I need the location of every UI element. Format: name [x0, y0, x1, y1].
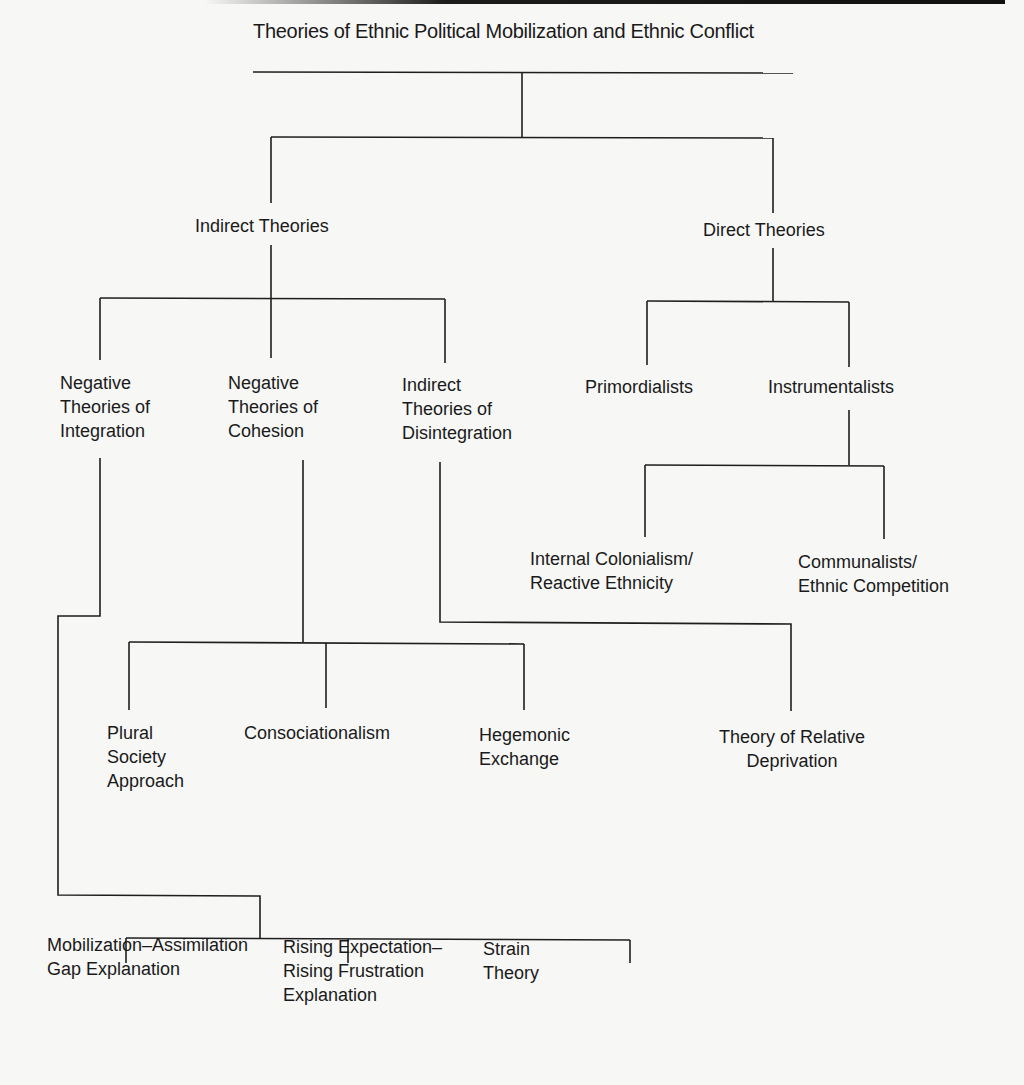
integration-connector [58, 458, 260, 938]
node-strain-theory: Strain Theory [483, 937, 539, 985]
level1-bar [271, 137, 773, 138]
node-negative-theories-cohesion: Negative Theories of Cohesion [228, 371, 318, 443]
node-indirect-theories-disintegration: Indirect Theories of Disintegration [402, 373, 512, 445]
node-relative-deprivation: Theory of Relative Deprivation [702, 725, 882, 773]
node-mobilization-assimilation: Mobilization–Assimilation Gap Explanatio… [47, 933, 248, 981]
node-indirect-theories: Indirect Theories [195, 214, 329, 238]
title-underline [253, 72, 793, 73]
node-hegemonic-exchange: Hegemonic Exchange [479, 723, 570, 771]
direct-bar [647, 301, 849, 302]
node-primordialists: Primordialists [585, 375, 693, 399]
node-direct-theories: Direct Theories [703, 218, 825, 242]
node-instrumentalists: Instrumentalists [768, 375, 894, 399]
tree-connectors [0, 0, 1024, 1085]
node-internal-colonialism: Internal Colonialism/ Reactive Ethnicity [530, 547, 693, 595]
instrumentalists-bar [645, 465, 884, 466]
node-plural-society: Plural Society Approach [107, 721, 184, 793]
node-negative-theories-integration: Negative Theories of Integration [60, 371, 150, 443]
node-rising-expectation: Rising Expectation– Rising Frustration E… [283, 935, 442, 1007]
diagram-title: Theories of Ethnic Political Mobilizatio… [253, 20, 798, 43]
node-consociationalism: Consociationalism [244, 721, 390, 745]
indirect-bar [100, 298, 445, 299]
node-communalists: Communalists/ Ethnic Competition [798, 550, 949, 598]
